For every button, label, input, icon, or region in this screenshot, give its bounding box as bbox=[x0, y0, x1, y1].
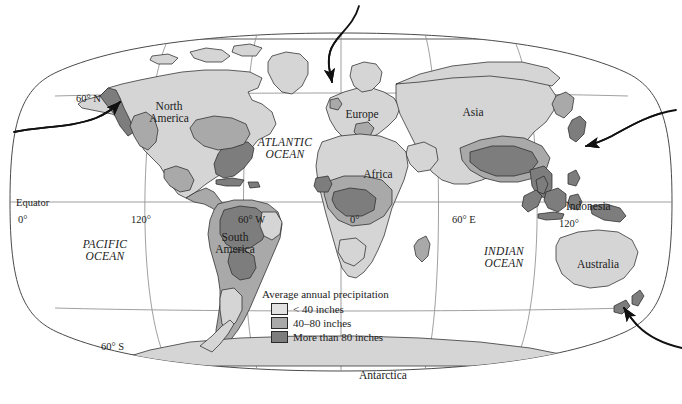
ocean-label-indian-line2: OCEAN bbox=[474, 257, 534, 269]
continent-label-south-america-line1: South bbox=[206, 231, 264, 243]
map-legend: Average annual precipitation < 40 inches… bbox=[262, 288, 442, 344]
ocean-label-pacific: PACIFIC OCEAN bbox=[72, 238, 138, 263]
continent-label-antarctica: Antarctica bbox=[352, 369, 414, 381]
continent-label-south-america-line2: America bbox=[206, 243, 264, 255]
ocean-label-atlantic-line1: ATLANTIC bbox=[252, 136, 318, 148]
graticule-label-0-left: 0° bbox=[18, 214, 27, 225]
graticule-label-60e: 60° E bbox=[452, 214, 476, 225]
legend-row-under-40: < 40 inches bbox=[262, 302, 442, 315]
graticule-label-60w: 60° W bbox=[238, 214, 265, 225]
ocean-label-pacific-line2: OCEAN bbox=[72, 250, 138, 262]
legend-row-over-80: More than 80 inches bbox=[262, 330, 442, 343]
caribbean-islands-2 bbox=[248, 182, 260, 188]
ocean-label-indian: INDIAN OCEAN bbox=[474, 245, 534, 270]
continent-label-africa: Africa bbox=[353, 168, 403, 180]
legend-label-over-80: More than 80 inches bbox=[293, 331, 383, 343]
legend-label-under-40: < 40 inches bbox=[293, 303, 344, 315]
continent-label-europe: Europe bbox=[336, 108, 388, 120]
legend-row-40-80: 40–80 inches bbox=[262, 316, 442, 329]
legend-title: Average annual precipitation bbox=[262, 288, 442, 300]
legend-label-40-80: 40–80 inches bbox=[293, 317, 351, 329]
caribbean-islands bbox=[216, 178, 244, 186]
continent-label-indonesia: Indonesia bbox=[566, 200, 628, 212]
graticule-label-120e: 120° bbox=[559, 218, 579, 229]
continent-label-south-america: South America bbox=[206, 231, 264, 256]
ocean-label-indian-line1: INDIAN bbox=[474, 245, 534, 257]
ocean-label-atlantic: ATLANTIC OCEAN bbox=[252, 136, 318, 161]
continent-label-australia: Australia bbox=[570, 258, 626, 270]
continent-label-north-america: North America bbox=[140, 100, 198, 125]
graticule-label-120w: 120° bbox=[131, 214, 151, 225]
ocean-label-pacific-line1: PACIFIC bbox=[72, 238, 138, 250]
continent-label-north-america-line1: North bbox=[140, 100, 198, 112]
ocean-label-atlantic-line2: OCEAN bbox=[252, 148, 318, 160]
graticule-label-60n: 60° N bbox=[76, 93, 101, 104]
legend-swatch-over-80 bbox=[271, 331, 288, 343]
africa-guinea-precip bbox=[314, 176, 332, 192]
map-figure: North America South America Europe Afric… bbox=[0, 0, 682, 404]
graticule-label-0: 0° bbox=[350, 214, 359, 225]
continent-label-asia: Asia bbox=[455, 106, 491, 118]
legend-swatch-40-80 bbox=[271, 317, 288, 329]
graticule-label-60s: 60° S bbox=[101, 341, 124, 352]
graticule-label-equator: Equator bbox=[16, 197, 49, 208]
continent-label-north-america-line2: America bbox=[140, 112, 198, 124]
legend-swatch-under-40 bbox=[271, 303, 288, 315]
